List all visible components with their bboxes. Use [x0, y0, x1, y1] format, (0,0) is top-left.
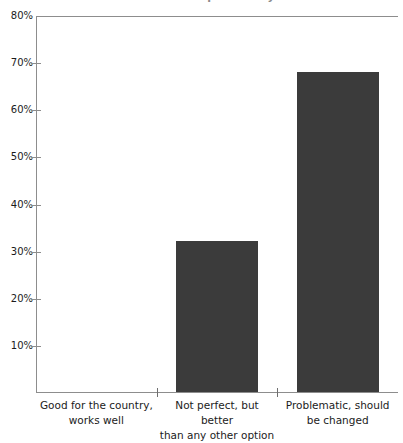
- plot-top-border: [36, 16, 398, 17]
- x-axis-category-label-line: than any other option: [159, 428, 276, 443]
- x-axis-separator-tick: [277, 388, 278, 397]
- bar: [176, 241, 258, 392]
- x-axis-category-label: Good for the country,works well: [36, 398, 157, 430]
- y-axis-tick-label: 70%: [3, 58, 33, 68]
- y-axis-tick: [31, 205, 41, 206]
- y-axis-tick-label: 20%: [3, 294, 33, 304]
- x-axis-separator-tick: [157, 388, 158, 397]
- y-axis-tick: [31, 157, 41, 158]
- x-axis-category-label: Problematic, shouldbe changed: [277, 398, 398, 430]
- y-axis-tick: [31, 252, 41, 253]
- x-axis-category-label-line: Problematic, should: [279, 398, 396, 413]
- chart-title: Views of the U.S. political system: [0, 0, 403, 3]
- y-axis-tick-label: 10%: [3, 341, 33, 351]
- x-axis-category-label-line: works well: [38, 413, 155, 428]
- plot-area: [36, 16, 398, 393]
- y-axis-tick: [31, 110, 41, 111]
- x-axis-labels: Good for the country,works wellNot perfe…: [36, 398, 398, 430]
- y-axis-tick-label: 80%: [3, 11, 33, 21]
- y-axis-tick: [31, 63, 41, 64]
- x-axis-category-label: Not perfect, but betterthan any other op…: [157, 398, 278, 430]
- y-axis-tick: [31, 299, 41, 300]
- x-axis-category-label-line: Good for the country,: [38, 398, 155, 413]
- y-axis-tick-label: 40%: [3, 200, 33, 210]
- bar: [297, 72, 379, 392]
- y-axis-tick-label: 50%: [3, 152, 33, 162]
- x-axis-category-label-line: Not perfect, but better: [159, 398, 276, 428]
- x-axis-category-label-line: be changed: [279, 413, 396, 428]
- y-axis-tick-label: 60%: [3, 105, 33, 115]
- y-axis-labels: 10%20%30%40%50%60%70%80%: [0, 16, 33, 393]
- x-axis-line: [36, 392, 398, 393]
- y-axis-tick-label: 30%: [3, 247, 33, 257]
- chart-title-cropped: Views of the U.S. political system: [0, 0, 403, 7]
- y-axis-tick: [31, 346, 41, 347]
